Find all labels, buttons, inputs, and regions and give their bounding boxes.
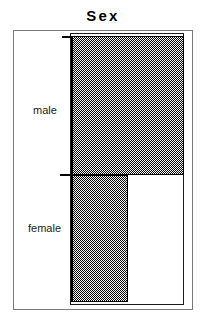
axis-tick-middle bbox=[60, 174, 73, 176]
category-label-female: female bbox=[28, 222, 61, 235]
chart-title: Sex bbox=[0, 7, 206, 25]
axis-tick-top bbox=[62, 36, 72, 38]
category-axis-spine bbox=[71, 36, 73, 302]
category-label-male: male bbox=[33, 104, 57, 117]
bar-male[interactable] bbox=[72, 36, 184, 175]
bar-female[interactable] bbox=[72, 175, 128, 302]
chart-canvas: Sex male female bbox=[0, 0, 206, 326]
